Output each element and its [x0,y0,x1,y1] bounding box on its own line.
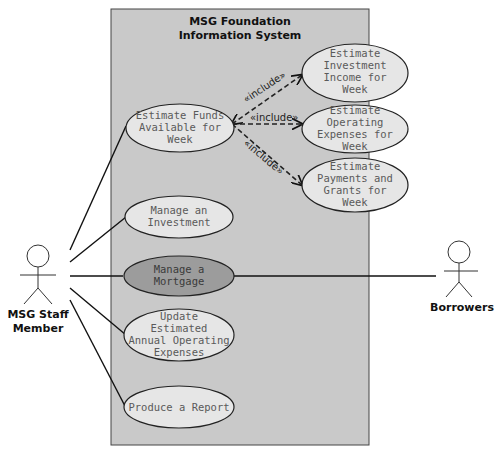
svg-text:Payments and: Payments and [317,172,393,184]
svg-text:Income for: Income for [323,71,386,83]
svg-text:Estimate: Estimate [330,160,381,172]
system-title-line2: Information System [179,29,302,42]
svg-text:Investment: Investment [147,216,210,228]
svg-text:Estimate: Estimate [330,104,381,116]
svg-text:Estimate Funds: Estimate Funds [136,109,225,121]
svg-text:Week: Week [342,83,368,95]
actor-staff[interactable] [20,245,56,304]
svg-text:Manage an: Manage an [151,204,208,216]
svg-text:Annual Operating: Annual Operating [128,334,229,346]
actor-staff-label-2: Member [13,322,64,335]
svg-text:Expenses for: Expenses for [317,128,393,140]
actor-borrowers[interactable] [444,241,478,297]
usecase-investment-income[interactable]: Estimate Investment Income for Week [302,44,408,102]
svg-text:Manage a: Manage a [154,263,205,275]
actor-staff-label-1: MSG Staff [7,308,68,321]
svg-text:Update: Update [160,310,198,322]
svg-text:Mortgage: Mortgage [154,275,205,287]
svg-text:Expenses: Expenses [154,346,205,358]
svg-text:Week: Week [342,196,368,208]
svg-text:Available for: Available for [139,121,221,133]
usecase-update-expenses[interactable]: Update Estimated Annual Operating Expens… [124,309,234,361]
svg-text:Produce a Report: Produce a Report [128,401,229,413]
svg-text:Investment: Investment [323,59,386,71]
svg-text:Week: Week [167,133,193,145]
svg-text:Estimated: Estimated [151,322,208,334]
system-title-line1: MSG Foundation [189,15,291,28]
usecase-manage-investment[interactable]: Manage an Investment [125,196,233,238]
usecase-payments-grants[interactable]: Estimate Payments and Grants for Week [302,158,408,212]
svg-text:Grants for: Grants for [323,184,386,196]
svg-text:Operating: Operating [327,116,384,128]
usecase-produce-report[interactable]: Produce a Report [124,386,234,428]
usecase-manage-mortgage[interactable]: Manage a Mortgage [124,256,234,296]
usecase-operating-expenses[interactable]: Estimate Operating Expenses for Week [302,104,408,153]
svg-text:Estimate: Estimate [330,47,381,59]
usecase-estimate-funds[interactable]: Estimate Funds Available for Week [126,104,234,152]
include-label-2: «include» [250,112,298,123]
svg-text:Week: Week [342,140,368,152]
actor-borrowers-label: Borrowers [430,301,494,314]
use-case-diagram: MSG Foundation Information System MSG St… [0,0,501,454]
